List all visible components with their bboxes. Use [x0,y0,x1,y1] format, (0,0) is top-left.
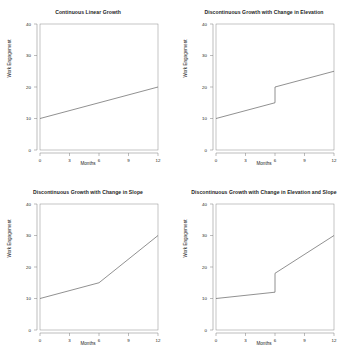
y-tick-label: 40 [202,202,207,207]
y-axis-title: Work Engagement [7,204,12,274]
y-tick-label: 30 [26,53,31,58]
panel-change-in-elevation: Discontinuous Growth with Change in Elev… [176,0,352,180]
y-tick-label: 20 [26,85,31,90]
plot-area: 0 10 20 30 40 0 3 6 9 12 [176,180,352,360]
data-line-elevation-jump [216,71,334,118]
figure-panel-grid: Continuous Linear Growth 0 10 20 30 40 [0,0,352,360]
panel-continuous-linear-growth: Continuous Linear Growth 0 10 20 30 40 [0,0,176,180]
y-tick-label: 0 [205,328,208,333]
plot-area: 0 10 20 30 40 0 3 6 9 12 [0,180,176,360]
data-line-continuous [40,87,158,119]
plot-border [216,204,334,330]
panel-change-in-slope: Discontinuous Growth with Change in Slop… [0,180,176,360]
x-axis-title: Months [0,161,176,166]
y-tick-label: 0 [205,148,208,153]
y-tick-label: 40 [26,202,31,207]
y-axis: 0 10 20 30 40 [202,202,213,333]
y-axis: 0 10 20 30 40 [202,22,213,153]
y-tick-label: 20 [26,265,31,270]
data-line-elevation-and-slope-change [216,236,334,299]
plot-border [40,204,158,330]
x-axis-title: Months [176,161,352,166]
y-axis-title: Work Engagement [183,24,188,94]
y-tick-label: 30 [202,233,207,238]
x-axis-title: Months [176,341,352,346]
y-tick-label: 10 [202,116,207,121]
panel-change-in-elevation-and-slope: Discontinuous Growth with Change in Elev… [176,180,352,360]
y-tick-label: 40 [26,22,31,27]
y-axis-title: Work Engagement [7,24,12,94]
y-axis: 0 10 20 30 40 [26,22,37,153]
y-tick-label: 30 [26,233,31,238]
y-tick-label: 0 [29,148,32,153]
y-tick-label: 10 [26,296,31,301]
y-axis-title: Work Engagement [183,204,188,274]
y-axis: 0 10 20 30 40 [26,202,37,333]
y-tick-label: 30 [202,53,207,58]
y-tick-label: 10 [26,116,31,121]
y-tick-label: 40 [202,22,207,27]
y-tick-label: 20 [202,265,207,270]
y-tick-label: 20 [202,85,207,90]
x-axis-title: Months [0,341,176,346]
y-tick-label: 10 [202,296,207,301]
plot-area: 0 10 20 30 40 0 3 6 9 12 [176,0,352,180]
y-tick-label: 0 [29,328,32,333]
plot-border [40,24,158,150]
plot-area: 0 10 20 30 40 0 3 6 9 12 [0,0,176,180]
data-line-slope-change [40,236,158,299]
